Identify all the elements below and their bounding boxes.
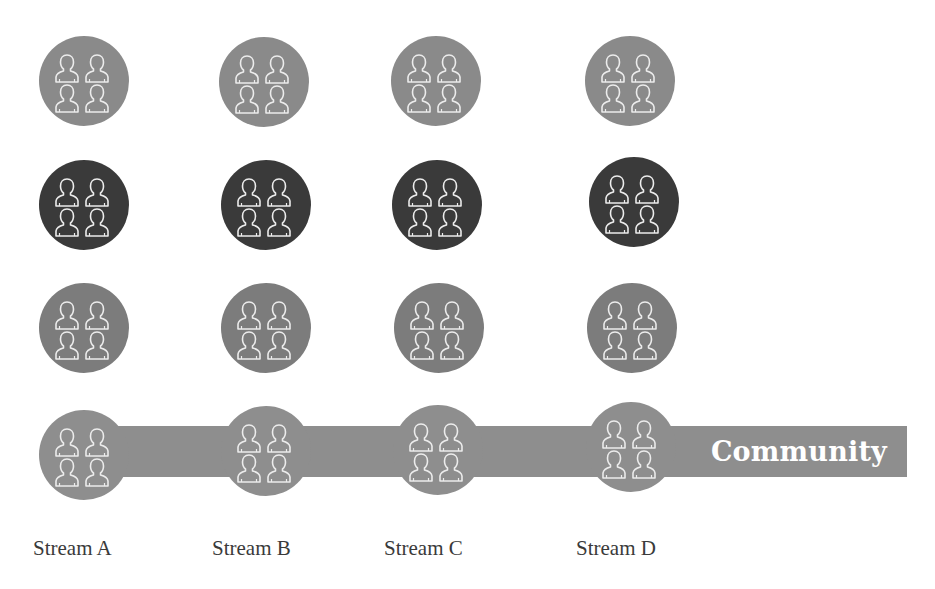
group-of-four-users-icon bbox=[589, 157, 679, 247]
community-label: Community bbox=[711, 426, 887, 477]
stream-b-label: Stream B bbox=[212, 536, 291, 561]
user-group-stream-c-row-3 bbox=[394, 283, 484, 373]
group-of-four-users-icon bbox=[221, 160, 311, 250]
user-group-stream-d-row-1 bbox=[585, 36, 675, 126]
user-group-stream-c-row-1 bbox=[391, 36, 481, 126]
group-of-four-users-icon bbox=[39, 160, 129, 250]
user-group-stream-b-row-1 bbox=[219, 37, 309, 127]
group-of-four-users-icon bbox=[393, 405, 483, 495]
user-group-stream-d-row-2 bbox=[589, 157, 679, 247]
user-group-stream-c-row-4 bbox=[393, 405, 483, 495]
group-of-four-users-icon bbox=[391, 36, 481, 126]
group-of-four-users-icon bbox=[219, 37, 309, 127]
group-of-four-users-icon bbox=[392, 160, 482, 250]
stream-d-label: Stream D bbox=[576, 536, 656, 561]
group-of-four-users-icon bbox=[587, 283, 677, 373]
user-group-stream-d-row-4 bbox=[586, 402, 676, 492]
user-group-stream-b-row-2 bbox=[221, 160, 311, 250]
group-of-four-users-icon bbox=[39, 283, 129, 373]
streams-community-diagram: Community Stream A Stream B Stream C Str… bbox=[0, 0, 935, 589]
group-of-four-users-icon bbox=[39, 36, 129, 126]
user-group-stream-a-row-2 bbox=[39, 160, 129, 250]
user-group-stream-d-row-3 bbox=[587, 283, 677, 373]
user-group-stream-a-row-4 bbox=[39, 410, 129, 500]
user-group-stream-b-row-4 bbox=[221, 406, 311, 496]
group-of-four-users-icon bbox=[394, 283, 484, 373]
user-group-stream-a-row-1 bbox=[39, 36, 129, 126]
user-group-stream-b-row-3 bbox=[221, 283, 311, 373]
stream-c-label: Stream C bbox=[384, 536, 463, 561]
stream-a-label: Stream A bbox=[33, 536, 112, 561]
user-group-stream-c-row-2 bbox=[392, 160, 482, 250]
group-of-four-users-icon bbox=[221, 283, 311, 373]
group-of-four-users-icon bbox=[39, 410, 129, 500]
group-of-four-users-icon bbox=[585, 36, 675, 126]
group-of-four-users-icon bbox=[221, 406, 311, 496]
user-group-stream-a-row-3 bbox=[39, 283, 129, 373]
group-of-four-users-icon bbox=[586, 402, 676, 492]
